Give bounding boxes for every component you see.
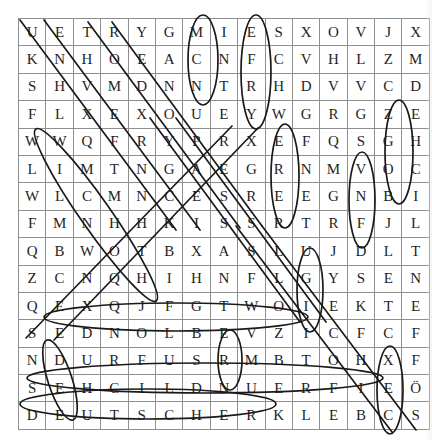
grid-cell[interactable]: E — [46, 375, 73, 402]
grid-cell[interactable]: X — [238, 128, 265, 155]
grid-cell[interactable]: D — [46, 347, 73, 374]
grid-cell[interactable]: G — [238, 155, 265, 182]
grid-cell[interactable]: C — [375, 320, 402, 347]
grid-cell[interactable]: I — [155, 265, 182, 292]
grid-cell[interactable]: I — [292, 292, 319, 319]
grid-cell[interactable]: E — [238, 19, 265, 46]
grid-cell[interactable]: E — [46, 320, 73, 347]
grid-cell[interactable]: E — [375, 375, 402, 402]
grid-cell[interactable]: H — [265, 73, 292, 100]
grid-cell[interactable]: D — [19, 402, 46, 429]
grid-cell[interactable]: N — [210, 265, 237, 292]
grid-cell[interactable]: D — [347, 238, 374, 265]
grid-cell[interactable]: F — [19, 210, 46, 237]
grid-cell[interactable]: Z — [375, 101, 402, 128]
grid-cell[interactable]: R — [320, 210, 347, 237]
grid-cell[interactable]: Q — [19, 238, 46, 265]
grid-cell[interactable]: B — [265, 347, 292, 374]
grid-cell[interactable]: U — [183, 101, 210, 128]
grid-cell[interactable]: U — [19, 19, 46, 46]
grid-cell[interactable]: I — [46, 155, 73, 182]
grid-cell[interactable]: W — [265, 101, 292, 128]
grid-cell[interactable]: I — [210, 19, 237, 46]
grid-cell[interactable]: E — [265, 128, 292, 155]
grid-cell[interactable]: N — [292, 155, 319, 182]
grid-cell[interactable]: O — [375, 155, 402, 182]
grid-cell[interactable]: O — [265, 292, 292, 319]
grid-cell[interactable]: M — [183, 19, 210, 46]
grid-cell[interactable]: S — [265, 19, 292, 46]
grid-cell[interactable]: L — [347, 46, 374, 73]
grid-cell[interactable]: O — [128, 320, 155, 347]
grid-cell[interactable]: X — [183, 238, 210, 265]
grid-cell[interactable]: H — [46, 73, 73, 100]
grid-cell[interactable]: E — [265, 183, 292, 210]
grid-cell[interactable]: O — [101, 46, 128, 73]
grid-cell[interactable]: C — [375, 402, 402, 429]
grid-cell[interactable]: S — [19, 375, 46, 402]
grid-cell[interactable]: G — [183, 292, 210, 319]
grid-cell[interactable]: Z — [19, 265, 46, 292]
grid-cell[interactable]: J — [320, 238, 347, 265]
grid-cell[interactable]: S — [128, 402, 155, 429]
grid-cell[interactable]: X — [73, 101, 100, 128]
grid-cell[interactable]: A — [155, 46, 182, 73]
grid-cell[interactable]: L — [265, 265, 292, 292]
grid-cell[interactable]: W — [46, 128, 73, 155]
grid-cell[interactable]: N — [128, 183, 155, 210]
grid-cell[interactable]: C — [155, 183, 182, 210]
grid-cell[interactable]: D — [183, 375, 210, 402]
grid-cell[interactable]: E — [265, 375, 292, 402]
grid-cell[interactable]: E — [292, 183, 319, 210]
grid-cell[interactable]: Q — [73, 128, 100, 155]
grid-cell[interactable]: D — [73, 320, 100, 347]
grid-cell[interactable]: M — [101, 183, 128, 210]
grid-cell[interactable]: F — [238, 265, 265, 292]
grid-cell[interactable]: T — [210, 292, 237, 319]
grid-cell[interactable]: E — [210, 402, 237, 429]
grid-cell[interactable]: G — [292, 101, 319, 128]
grid-cell[interactable]: N — [128, 155, 155, 182]
grid-cell[interactable]: A — [183, 155, 210, 182]
grid-cell[interactable]: L — [46, 183, 73, 210]
grid-cell[interactable]: V — [347, 155, 374, 182]
grid-cell[interactable]: H — [347, 347, 374, 374]
grid-cell[interactable]: N — [73, 210, 100, 237]
grid-cell[interactable]: W — [73, 238, 100, 265]
grid-cell[interactable]: H — [128, 265, 155, 292]
grid-cell[interactable]: Z — [375, 46, 402, 73]
grid-cell[interactable]: E — [320, 292, 347, 319]
grid-cell[interactable]: Q — [101, 292, 128, 319]
grid-cell[interactable]: P — [183, 128, 210, 155]
grid-cell[interactable]: L — [265, 238, 292, 265]
grid-cell[interactable]: B — [183, 320, 210, 347]
grid-cell[interactable]: S — [238, 210, 265, 237]
grid-cell[interactable]: T — [292, 210, 319, 237]
grid-cell[interactable]: U — [292, 238, 319, 265]
grid-cell[interactable]: B — [375, 183, 402, 210]
grid-cell[interactable]: R — [210, 128, 237, 155]
grid-cell[interactable]: X — [292, 19, 319, 46]
grid-cell[interactable]: L — [292, 402, 319, 429]
grid-cell[interactable]: Y — [238, 101, 265, 128]
grid-cell[interactable]: G — [320, 183, 347, 210]
grid-cell[interactable]: U — [238, 375, 265, 402]
grid-cell[interactable]: Z — [265, 320, 292, 347]
grid-cell[interactable]: I — [183, 210, 210, 237]
grid-cell[interactable]: T — [210, 73, 237, 100]
grid-cell[interactable]: E — [46, 292, 73, 319]
grid-cell[interactable]: S — [19, 320, 46, 347]
grid-cell[interactable]: G — [155, 19, 182, 46]
grid-cell[interactable]: E — [46, 402, 73, 429]
grid-cell[interactable]: T — [73, 19, 100, 46]
grid-cell[interactable]: J — [375, 19, 402, 46]
grid-cell[interactable]: V — [347, 19, 374, 46]
grid-cell[interactable]: N — [347, 183, 374, 210]
grid-cell[interactable]: V — [73, 73, 100, 100]
grid-cell[interactable]: K — [347, 292, 374, 319]
grid-cell[interactable]: K — [19, 46, 46, 73]
grid-cell[interactable]: N — [155, 73, 182, 100]
grid-cell[interactable]: E — [46, 19, 73, 46]
grid-cell[interactable]: V — [292, 46, 319, 73]
grid-cell[interactable]: H — [101, 210, 128, 237]
